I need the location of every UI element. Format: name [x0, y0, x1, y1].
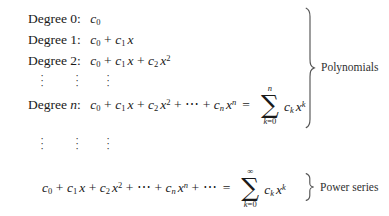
degree-n-label: Degree n:: [28, 97, 81, 112]
summation-infinite-body: ckxk: [264, 183, 286, 197]
vertical-ellipsis-lower-2: ···: [72, 136, 82, 150]
equation-line-degree-1: Degree 1: c0+c1x: [28, 33, 133, 47]
degree-1-expression: c0+c1x: [84, 32, 133, 47]
equation-line-degree-n: Degree n: c0+c1x+c2x2+⋯+cnxn=n∑k=0ckxk: [28, 95, 305, 116]
vertical-ellipsis-upper-1: ···: [37, 73, 47, 87]
math-figure: Degree 0: c0 Degree 1: c0+c1x Degree 2: …: [0, 0, 389, 216]
polynomials-brace: [303, 6, 317, 130]
polynomials-brace-label: Polynomials: [321, 61, 379, 73]
power-series-expression: c0+c1x+c2x2+⋯+cnxn+⋯=∞∑k=0ckxk: [42, 180, 286, 195]
equation-line-power-series: c0+c1x+c2x2+⋯+cnxn+⋯=∞∑k=0ckxk: [42, 178, 286, 199]
degree-2-label: Degree 2:: [28, 53, 81, 68]
degree-2-expression: c0+c1x+c2x2: [84, 53, 170, 68]
vertical-ellipsis-lower-3: ···: [103, 136, 113, 150]
vertical-ellipsis-upper-3: ···: [103, 73, 113, 87]
power-series-brace: [303, 172, 317, 202]
power-series-brace-label: Power series: [320, 181, 378, 193]
vertical-ellipsis-upper-2: ···: [72, 73, 82, 87]
degree-1-label: Degree 1:: [28, 32, 81, 47]
degree-0-expression: c0: [84, 11, 100, 26]
degree-n-expression: c0+c1x+c2x2+⋯+cnxn=n∑k=0ckxk: [84, 97, 305, 112]
vertical-ellipsis-lower-1: ···: [37, 136, 47, 150]
degree-0-label: Degree 0:: [28, 11, 81, 26]
equation-line-degree-2: Degree 2: c0+c1x+c2x2: [28, 54, 171, 68]
equation-line-degree-0: Degree 0: c0: [28, 12, 101, 26]
summation-infinite: ∞∑k=0: [236, 177, 264, 198]
summation-finite: n∑k=0: [256, 94, 284, 115]
